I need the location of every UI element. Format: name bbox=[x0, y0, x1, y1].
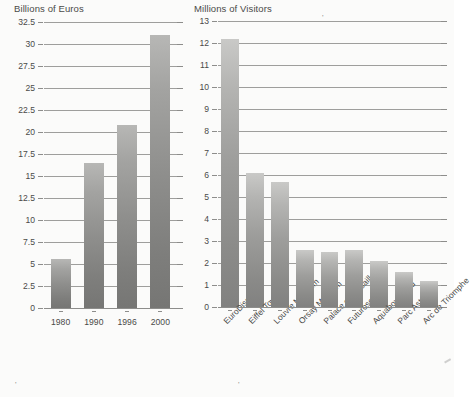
bar bbox=[296, 250, 314, 307]
y-tick-mark-right bbox=[441, 263, 447, 264]
y-tick-mark-right bbox=[177, 220, 183, 221]
y-tick-mark bbox=[212, 109, 217, 110]
y-tick-mark-right bbox=[441, 197, 447, 198]
y-tick-mark bbox=[212, 175, 217, 176]
y-axis-tick-label: 12 bbox=[197, 39, 209, 48]
scan-artifact-bottom-left: ' bbox=[15, 381, 17, 389]
y-tick-mark-right bbox=[177, 66, 183, 67]
y-tick-mark bbox=[38, 44, 43, 45]
y-tick-mark-right bbox=[177, 264, 183, 265]
bar bbox=[51, 259, 71, 308]
bar bbox=[321, 252, 339, 307]
y-tick-mark bbox=[212, 21, 217, 22]
chart-title-right: Millions of Visitors bbox=[194, 3, 272, 14]
y-tick-mark bbox=[212, 197, 217, 198]
y-axis-tick-label: 9 bbox=[197, 105, 209, 114]
y-axis-tick-label: 30 bbox=[9, 40, 35, 49]
x-axis-line bbox=[218, 307, 441, 308]
x-axis-line bbox=[44, 308, 177, 309]
y-axis-tick-label: 0 bbox=[9, 304, 35, 313]
scan-artifact-top: ' bbox=[322, 14, 324, 22]
y-tick-mark-right bbox=[177, 44, 183, 45]
y-axis-tick-label: 11 bbox=[197, 61, 209, 70]
y-axis-tick-label: 25 bbox=[9, 84, 35, 93]
y-tick-mark bbox=[38, 242, 43, 243]
scan-artifact-bottom-mid: ' bbox=[238, 381, 240, 389]
y-axis-tick-label: 15 bbox=[9, 172, 35, 181]
y-axis-tick-label: 2 bbox=[197, 259, 209, 268]
y-axis-tick-label: 0 bbox=[197, 303, 209, 312]
y-tick-mark bbox=[212, 65, 217, 66]
x-axis-tick-label: 1980 bbox=[51, 318, 70, 327]
bar bbox=[370, 261, 388, 307]
y-tick-mark bbox=[38, 66, 43, 67]
y-tick-mark bbox=[212, 263, 217, 264]
gridline bbox=[218, 87, 441, 88]
bar bbox=[150, 35, 170, 308]
y-tick-mark-right bbox=[177, 308, 183, 309]
y-tick-mark bbox=[212, 285, 217, 286]
y-tick-mark-right bbox=[441, 65, 447, 66]
x-axis-tick-label: 1990 bbox=[84, 318, 103, 327]
x-axis-tick-label: 2000 bbox=[151, 318, 170, 327]
y-tick-mark-right bbox=[441, 87, 447, 88]
y-axis-tick-label: 22.5 bbox=[9, 106, 35, 115]
bar bbox=[246, 173, 264, 307]
bar bbox=[221, 39, 239, 307]
y-tick-mark-right bbox=[441, 285, 447, 286]
y-tick-mark-right bbox=[177, 286, 183, 287]
x-tick-mark bbox=[59, 311, 63, 312]
chart-panel-millions-of-visitors: Millions of Visitors 012345678910111213E… bbox=[190, 0, 454, 397]
y-tick-mark-right bbox=[441, 131, 447, 132]
bar bbox=[117, 125, 137, 308]
chart-title-left: Billions of Euros bbox=[14, 3, 84, 14]
y-axis-tick-label: 1 bbox=[197, 281, 209, 290]
y-tick-mark bbox=[38, 110, 43, 111]
gridline bbox=[218, 65, 441, 66]
chart-panel-billions-of-euros: Billions of Euros 02.557.51012.51517.520… bbox=[0, 0, 190, 345]
y-axis-tick-label: 8 bbox=[197, 127, 209, 136]
y-tick-mark-right bbox=[177, 154, 183, 155]
bar bbox=[271, 182, 289, 307]
y-tick-mark-right bbox=[177, 22, 183, 23]
gridline bbox=[218, 109, 441, 110]
y-tick-mark-right bbox=[441, 109, 447, 110]
gridline bbox=[218, 153, 441, 154]
bar bbox=[345, 250, 363, 307]
y-tick-mark bbox=[212, 241, 217, 242]
y-axis-tick-label: 13 bbox=[197, 17, 209, 26]
y-axis-tick-label: 5 bbox=[9, 260, 35, 269]
x-tick-mark bbox=[125, 311, 129, 312]
y-tick-mark bbox=[38, 264, 43, 265]
y-tick-mark bbox=[212, 43, 217, 44]
gridline bbox=[44, 22, 177, 23]
x-axis-tick-label: 1996 bbox=[118, 318, 137, 327]
y-axis-tick-label: 20 bbox=[9, 128, 35, 137]
y-tick-mark-right bbox=[177, 88, 183, 89]
y-tick-mark-right bbox=[441, 43, 447, 44]
y-axis-tick-label: 5 bbox=[197, 193, 209, 202]
y-tick-mark bbox=[212, 131, 217, 132]
y-tick-mark bbox=[38, 220, 43, 221]
y-axis-tick-label: 7 bbox=[197, 149, 209, 158]
y-axis-tick-label: 32.5 bbox=[9, 18, 35, 27]
gridline bbox=[218, 43, 441, 44]
y-tick-mark bbox=[38, 22, 43, 23]
y-tick-mark-right bbox=[177, 242, 183, 243]
y-tick-mark-right bbox=[441, 21, 447, 22]
y-axis-tick-label: 3 bbox=[197, 237, 209, 246]
y-tick-mark bbox=[38, 198, 43, 199]
gridline bbox=[218, 21, 441, 22]
y-tick-mark bbox=[212, 87, 217, 88]
y-axis-tick-label: 6 bbox=[197, 171, 209, 180]
gridline bbox=[218, 131, 441, 132]
y-axis-tick-label: 4 bbox=[197, 215, 209, 224]
y-tick-mark bbox=[212, 219, 217, 220]
y-tick-mark bbox=[38, 132, 43, 133]
y-tick-mark-right bbox=[441, 153, 447, 154]
y-tick-mark bbox=[212, 153, 217, 154]
y-axis-tick-label: 10 bbox=[9, 216, 35, 225]
y-tick-mark-right bbox=[177, 110, 183, 111]
y-axis-tick-label: 17.5 bbox=[9, 150, 35, 159]
bar bbox=[395, 272, 413, 307]
